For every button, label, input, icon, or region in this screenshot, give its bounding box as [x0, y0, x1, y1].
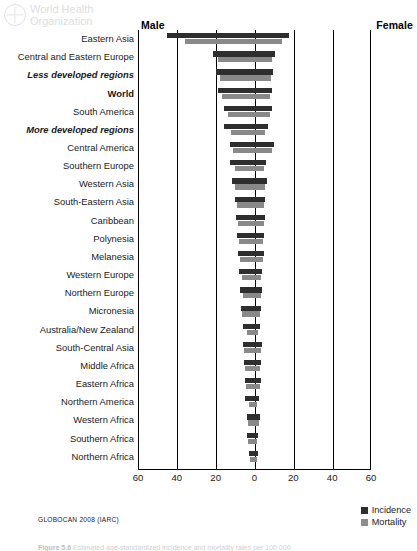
- chart-row: Caribbean: [0, 212, 417, 230]
- row-bars: [138, 302, 371, 320]
- chart-row: Eastern Africa: [0, 375, 417, 393]
- row-bars: [138, 157, 371, 175]
- chart-row: Micronesia: [0, 302, 417, 320]
- chart-row: Southern Africa: [0, 429, 417, 447]
- chart-row: South America: [0, 103, 417, 121]
- bar-mortality: [248, 420, 260, 425]
- legend-swatch-incidence: [361, 507, 368, 514]
- bar-incidence: [236, 215, 265, 220]
- row-bars: [138, 193, 371, 211]
- bar-mortality: [242, 275, 261, 280]
- row-label: Polynesia: [93, 234, 134, 244]
- bar-mortality: [248, 439, 258, 444]
- bar-mortality: [218, 57, 272, 62]
- bar-incidence: [237, 233, 264, 238]
- bar-mortality: [228, 112, 270, 117]
- chart-legend: Incidence Mortality: [361, 505, 411, 527]
- chart-row: Northern America: [0, 393, 417, 411]
- chart-row: Northern Africa: [0, 448, 417, 466]
- bar-mortality: [242, 311, 260, 316]
- bar-incidence: [224, 106, 272, 111]
- bar-mortality: [250, 457, 258, 462]
- row-bars: [138, 175, 371, 193]
- row-bars: [138, 357, 371, 375]
- row-bars: [138, 284, 371, 302]
- chart-row: More developed regions: [0, 121, 417, 139]
- row-label: Western Asia: [79, 179, 134, 189]
- bar-incidence: [230, 160, 266, 165]
- bar-incidence: [230, 142, 274, 147]
- legend-label-mortality: Mortality: [372, 517, 407, 527]
- bar-mortality: [238, 221, 264, 226]
- row-bars: [138, 139, 371, 157]
- legend-item-mortality: Mortality: [361, 517, 411, 527]
- chart-row: Southern Europe: [0, 157, 417, 175]
- bar-mortality: [247, 330, 259, 335]
- chart-row: Eastern Asia: [0, 30, 417, 48]
- row-bars: [138, 48, 371, 66]
- row-bars: [138, 121, 371, 139]
- row-label: Eastern Africa: [76, 379, 134, 389]
- row-label: Eastern Asia: [81, 34, 134, 44]
- bar-incidence: [247, 433, 259, 438]
- row-bars: [138, 66, 371, 84]
- row-bars: [138, 429, 371, 447]
- bar-incidence: [247, 414, 261, 419]
- x-tick-label: 40: [327, 472, 338, 483]
- bar-mortality: [246, 384, 261, 389]
- row-bars: [138, 212, 371, 230]
- x-tick-label: 20: [210, 472, 221, 483]
- chart-row: Western Asia: [0, 175, 417, 193]
- row-bars: [138, 30, 371, 48]
- x-tick-label: 40: [171, 472, 182, 483]
- bar-incidence: [245, 378, 262, 383]
- row-bars: [138, 321, 371, 339]
- chart-row: Middle Africa: [0, 357, 417, 375]
- bar-mortality: [231, 130, 265, 135]
- chart-row: Western Africa: [0, 411, 417, 429]
- bar-mortality: [239, 239, 263, 244]
- row-label: Caribbean: [91, 216, 134, 226]
- row-label: South America: [73, 107, 134, 117]
- chart-row: Western Europe: [0, 266, 417, 284]
- row-label: Less developed regions: [27, 70, 134, 80]
- row-label: South-Central Asia: [56, 343, 134, 353]
- chart-row: Central and Eastern Europe: [0, 48, 417, 66]
- row-label: Middle Africa: [80, 361, 134, 371]
- row-bars: [138, 84, 371, 102]
- source-note: GLOBOCAN 2008 (IARC): [38, 516, 119, 523]
- bar-incidence: [167, 33, 289, 38]
- figure-caption-text: Estimated age-standardized incidence and…: [73, 544, 291, 551]
- butterfly-chart: Male Female Eastern AsiaCentral and East…: [0, 0, 417, 500]
- row-label: Southern Africa: [70, 434, 134, 444]
- bar-mortality: [237, 202, 264, 207]
- bar-incidence: [224, 124, 268, 129]
- bar-mortality: [235, 166, 264, 171]
- bar-mortality: [235, 184, 265, 189]
- bar-incidence: [240, 287, 262, 292]
- row-bars: [138, 448, 371, 466]
- chart-row: Polynesia: [0, 230, 417, 248]
- bar-incidence: [239, 269, 262, 274]
- bar-incidence: [235, 197, 265, 202]
- row-label: Australia/New Zealand: [40, 325, 134, 335]
- bar-mortality: [244, 348, 261, 353]
- bar-mortality: [249, 402, 258, 407]
- row-bars: [138, 103, 371, 121]
- bar-incidence: [216, 69, 273, 74]
- figure-number: Figure 5.6: [38, 544, 71, 551]
- row-bars: [138, 339, 371, 357]
- row-bars: [138, 230, 371, 248]
- row-label: Northern Africa: [71, 452, 134, 462]
- bar-incidence: [232, 178, 267, 183]
- chart-row: Melanesia: [0, 248, 417, 266]
- row-label: Melanesia: [91, 252, 134, 262]
- bar-mortality: [240, 257, 263, 262]
- row-bars: [138, 375, 371, 393]
- x-tick-label: 60: [133, 472, 144, 483]
- row-bars: [138, 411, 371, 429]
- row-bars: [138, 266, 371, 284]
- row-bars: [138, 393, 371, 411]
- x-axis-ticks: 6040200204060: [138, 472, 371, 486]
- chart-row: South-Central Asia: [0, 339, 417, 357]
